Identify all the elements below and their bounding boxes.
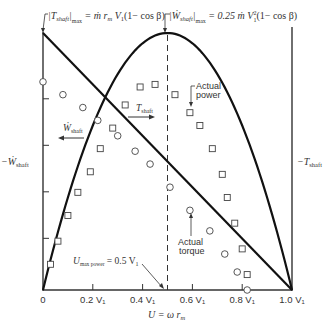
actual-torque-point <box>207 228 214 235</box>
x-tick-label: 0.2 V₁ <box>80 294 105 305</box>
actual-power-point <box>219 171 225 177</box>
x-tick-label: 0.6 V₁ <box>180 294 205 305</box>
x-tick-label: 0.4 V₁ <box>130 294 155 305</box>
actual-power-point <box>137 84 143 90</box>
actual-torque-point <box>80 104 87 111</box>
svg-text:|Tshaft|max = ṁ rm V1(1− cos β: |Tshaft|max = ṁ rm V1(1− cos β) <box>48 10 165 24</box>
torque-max-arrowhead <box>41 28 45 33</box>
actual-torque-point <box>234 269 241 276</box>
actual-torque-point <box>147 161 154 168</box>
actual-torque-point <box>40 79 47 86</box>
power-max-sub-a: shaft <box>180 15 193 22</box>
w-shaft-arrow-annotation: Ẇshaft <box>58 122 84 141</box>
actual-torque-callout: Actual torque <box>178 213 205 256</box>
actual-torque-point <box>244 287 251 294</box>
x-axis-ticks: 00.2 V₁0.4 V₁0.6 V₁0.8 V₁1.0 V₁ <box>40 284 304 305</box>
left-axis-label-sub: shaft <box>16 161 29 168</box>
actual-torque-point <box>94 117 101 124</box>
svg-text:U = ω rm: U = ω rm <box>148 309 185 321</box>
svg-text:Tshaft: Tshaft <box>136 103 153 114</box>
actual-torque-point <box>187 207 194 214</box>
left-axis-ticks <box>43 99 49 239</box>
u-max-power-text: = 0.5 V <box>104 256 135 266</box>
actual-torque-point <box>167 184 174 191</box>
x-axis-label: U = ω r <box>148 309 181 320</box>
actual-power-point <box>232 220 238 226</box>
t-shaft-arrowhead <box>149 115 155 120</box>
actual-power-point <box>55 238 61 244</box>
torque-max-sub-b: max <box>72 18 82 24</box>
x-axis-label-sub: m <box>180 314 185 321</box>
right-axis-label: −Tshaft <box>297 156 322 168</box>
x-tick-label: 0.8 V₁ <box>230 294 255 305</box>
svg-text:Ẇshaft: Ẇshaft <box>63 122 83 134</box>
torque-max-text-d: (1− cos β) <box>124 10 165 22</box>
u-max-power-callout: Umax power = 0.5 V1 <box>73 256 164 289</box>
actual-power-point <box>65 212 71 218</box>
actual-torque-point <box>132 148 139 155</box>
actual-power-point <box>187 110 193 116</box>
actual-torque-point <box>114 133 121 140</box>
actual-power-point <box>87 169 93 175</box>
right-axis-label-sub: shaft <box>309 161 322 168</box>
u-max-power-sub: max power <box>80 261 105 267</box>
turbine-performance-chart: 00.2 V₁0.4 V₁0.6 V₁0.8 V₁1.0 V₁ |Tshaft|… <box>0 0 328 324</box>
actual-power-point <box>122 102 128 108</box>
power-max-annotation: |Ẇshaft|max = 0.25 ṁ V21(1− cos β) <box>163 10 297 33</box>
actual-power-callout: Actual power <box>189 81 221 107</box>
actual-torque-point <box>221 251 228 258</box>
w-shaft-arrowhead <box>58 136 64 141</box>
x-tick-label: 0 <box>40 294 45 305</box>
power-max-text-c: (1− cos β) <box>256 10 297 22</box>
actual-power-point <box>224 194 230 200</box>
actual-power-point <box>152 81 158 87</box>
u-max-power-leader <box>142 264 162 287</box>
actual-power-point <box>97 146 103 152</box>
actual-power-point <box>239 246 245 252</box>
power-max-text-b: = 0.25 ṁ V <box>206 10 255 21</box>
actual-power-leader <box>191 86 195 104</box>
actual-power-point <box>110 125 116 131</box>
svg-text:|Ẇshaft|max = 0.25 ṁ V21(1− co: |Ẇshaft|max = 0.25 ṁ V21(1− cos β) <box>169 10 297 24</box>
torque-max-text-b: = ṁ r <box>82 10 107 21</box>
actual-power-label-2: power <box>196 90 221 100</box>
left-axis-label: −Ẇshaft <box>1 156 29 168</box>
actual-power-point <box>197 123 203 129</box>
power-max-sub-b: max <box>196 18 206 24</box>
x-tick-label: 1.0 V₁ <box>279 294 304 305</box>
actual-power-point <box>47 261 53 267</box>
t-shaft-arrow-sub: shaft <box>141 108 153 114</box>
svg-text:Umax power = 0.5 V1: Umax power = 0.5 V1 <box>73 256 139 267</box>
torque-max-sub-a: shaft <box>56 15 69 22</box>
u-max-power-sub2: 1 <box>136 261 139 267</box>
actual-power-point <box>209 146 215 152</box>
actual-power-point <box>172 92 178 98</box>
actual-power-point <box>244 272 250 278</box>
t-shaft-arrow-annotation: Tshaft <box>128 103 155 120</box>
actual-power-arrowhead <box>189 102 193 107</box>
actual-power-point <box>75 189 81 195</box>
actual-torque-label-2: torque <box>179 246 205 256</box>
torque-max-annotation: |Tshaft|max = ṁ rm V1(1− cos β) <box>41 10 165 33</box>
w-shaft-arrow-sub: shaft <box>71 128 83 134</box>
actual-torque-point <box>60 91 67 98</box>
